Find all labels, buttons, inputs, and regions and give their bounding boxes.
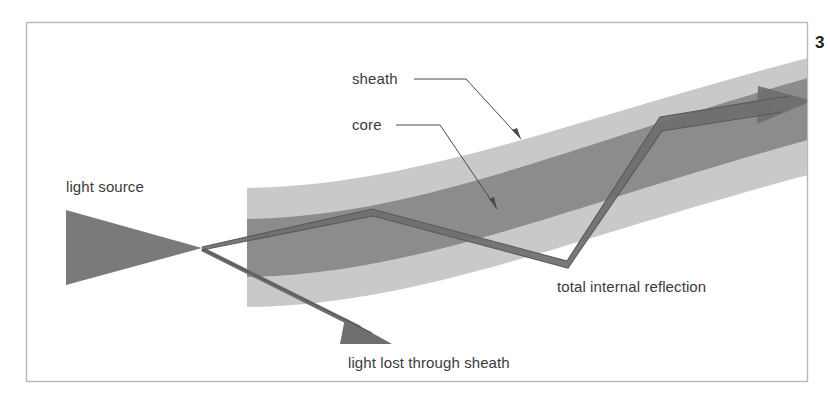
label-sheath: sheath xyxy=(352,70,398,87)
label-core: core xyxy=(352,116,382,133)
fiber-optic-diagram: sheath core light source light lost thro… xyxy=(0,0,830,404)
figure-number: 3 xyxy=(815,33,824,52)
label-light-lost-through-sheath: light lost through sheath xyxy=(348,354,510,371)
label-light-source: light source xyxy=(66,178,144,195)
figure-page: sheath core light source light lost thro… xyxy=(0,0,830,404)
label-total-internal-reflection: total internal reflection xyxy=(557,278,706,295)
